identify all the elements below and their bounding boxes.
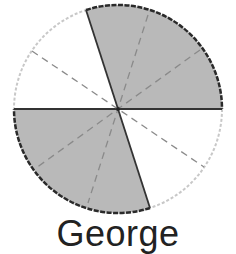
pie-center (116, 107, 120, 111)
figure-label: George (0, 214, 236, 254)
